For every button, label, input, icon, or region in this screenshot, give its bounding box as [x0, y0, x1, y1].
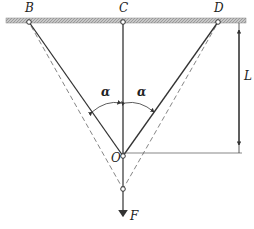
label-d: D	[213, 1, 224, 15]
label-alpha-right: α	[137, 85, 146, 99]
pin-c	[121, 20, 126, 25]
pin-b	[27, 20, 32, 25]
pin-o-deformed	[121, 187, 126, 192]
pin-o	[121, 154, 126, 159]
label-c: C	[119, 1, 128, 15]
label-alpha-left: α	[101, 85, 110, 99]
pin-d	[216, 20, 221, 25]
angle-arc-right	[125, 102, 154, 112]
truss-diagram: B C D O F L α α	[0, 0, 254, 229]
label-b: B	[24, 1, 34, 15]
label-f: F	[129, 209, 139, 223]
angle-arc-left	[92, 102, 121, 112]
bars	[29, 22, 218, 156]
label-o: O	[111, 151, 121, 165]
label-l: L	[243, 69, 252, 83]
ceiling-beam	[6, 18, 246, 23]
